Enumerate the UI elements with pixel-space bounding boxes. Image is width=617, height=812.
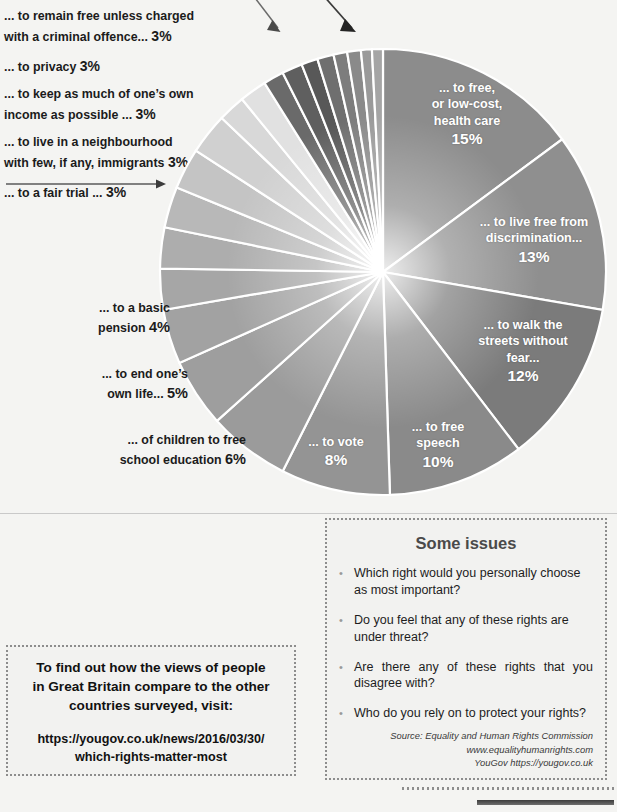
section-divider [0,513,617,514]
issue-text: Are there any of these rights that you d… [354,659,593,693]
list-item: • Which right would you personally choos… [339,565,593,599]
outside-label-line2: pension [98,321,146,335]
outside-label-line1: ... of children to free [128,433,246,447]
list-item: • Are there any of these rights that you… [339,659,593,693]
thin-slice-arrow-1-icon [252,0,281,32]
source-line-1: Source: Equality and Human Rights Commis… [390,730,593,741]
source-attribution: Source: Equality and Human Rights Commis… [390,729,593,770]
find-out-more-panel: To find out how the views of people in G… [6,645,296,776]
thin-slice-arrow-2-icon [322,0,356,32]
outside-label-line2: own life... [107,387,163,401]
source-line-3: YouGov https://yougov.co.uk [474,757,593,768]
outside-label-pct: 5% [167,385,188,401]
bullet-icon: • [339,705,345,722]
footer-bar [477,800,614,805]
find-out-line-3: countries surveyed, visit: [69,698,233,713]
issue-text: Who do you rely on to protect your right… [354,705,586,722]
outside-label-basic-pension: ... to a basic pension 4% [60,300,170,338]
bullet-icon: • [339,659,345,693]
source-line-2: www.equalityhumanrights.com [466,744,593,755]
outside-label-end-own-life: ... to end one’s own life... 5% [68,366,188,404]
bullet-icon: • [339,565,345,599]
pie-slice-group [160,49,606,495]
issues-title: Some issues [339,534,593,553]
find-out-line-1: To find out how the views of people [36,660,265,675]
issue-text: Do you feel that any of these rights are… [354,612,593,646]
outside-label-pct: 4% [149,319,170,335]
footer-dotted-rule [402,787,614,790]
find-out-heading: To find out how the views of people in G… [18,659,284,715]
some-issues-panel: Some issues • Which right would you pers… [325,518,607,780]
pie-chart: ... to free, or low-cost, health care 15… [0,0,617,512]
poster-page: ... to remain free unless charged with a… [0,0,617,812]
list-item: • Who do you rely on to protect your rig… [339,705,593,722]
url-line-2: which-rights-matter-most [75,750,227,764]
outside-label-line1: ... to end one’s [102,367,188,381]
bullet-icon: • [339,612,345,646]
outside-label-line2: school education [120,453,222,467]
outside-label-school-education: ... of children to free school education… [76,432,246,470]
issue-text: Which right would you personally choose … [354,565,593,599]
url-line-1: https://yougov.co.uk/news/2016/03/30/ [37,732,264,746]
yougov-url-link[interactable]: https://yougov.co.uk/news/2016/03/30/ wh… [18,731,284,766]
list-item: • Do you feel that any of these rights a… [339,612,593,646]
outside-label-line1: ... to a basic [99,301,170,315]
find-out-line-2: in Great Britain compare to the other [32,679,269,694]
outside-label-pct: 6% [225,451,246,467]
